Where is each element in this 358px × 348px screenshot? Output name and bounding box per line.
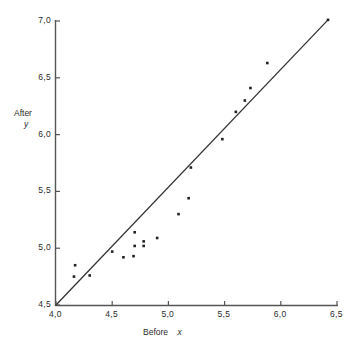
regression-line (56, 20, 328, 305)
x-tick-label: 4,0 (49, 309, 62, 319)
data-point (142, 245, 145, 248)
x-tick-label: 4,5 (105, 309, 118, 319)
chart-canvas (0, 0, 358, 348)
data-point (88, 274, 91, 277)
y-axis-title: After y (14, 108, 32, 130)
data-point (133, 245, 136, 248)
scatter-plot-figure: 4,55,05,56,06,57,0 4,04,55,05,56,06,5 Af… (0, 0, 358, 348)
y-axis-variable-symbol: y (24, 119, 32, 130)
y-axis-title-text: After (14, 108, 32, 118)
data-point (111, 250, 114, 253)
data-point (122, 256, 125, 259)
data-point (73, 275, 76, 278)
y-tick-label: 7,0 (27, 15, 51, 25)
x-axis-title-text: Before (143, 327, 168, 337)
data-point (74, 264, 77, 267)
x-tick-label: 5,5 (218, 309, 231, 319)
x-axis-variable-symbol: x (177, 327, 181, 337)
data-point (327, 19, 330, 22)
axes-group (55, 20, 338, 306)
x-axis-title: Before x (143, 327, 182, 337)
y-tick-label: 6,0 (27, 129, 51, 139)
y-tick-label: 4,5 (27, 299, 51, 309)
data-point (187, 197, 190, 200)
tick-marks (56, 21, 337, 305)
data-points (73, 19, 330, 278)
data-point (142, 240, 145, 243)
data-point (244, 99, 247, 102)
data-point (221, 138, 224, 141)
y-tick-label: 6,5 (27, 72, 51, 82)
data-point (132, 255, 135, 258)
x-tick-label: 5,0 (161, 309, 174, 319)
data-point (235, 111, 238, 114)
fitted-line (56, 20, 328, 305)
y-tick-label: 5,5 (27, 185, 51, 195)
data-point (177, 213, 180, 216)
y-tick-label: 5,0 (27, 242, 51, 252)
data-point (266, 62, 269, 65)
data-point (190, 166, 193, 169)
x-tick-label: 6,0 (274, 309, 287, 319)
x-tick-label: 6,5 (330, 309, 343, 319)
data-point (133, 231, 136, 234)
data-point (156, 237, 159, 240)
data-point (249, 87, 252, 90)
